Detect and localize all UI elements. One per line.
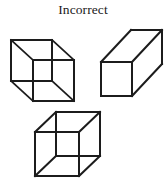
figure-cuboid-prism [96,18,166,100]
cube-diagonal-connector-tr [52,40,74,60]
page-title: Incorrect [0,2,166,17]
figure-panel: Incorrect [0,0,166,182]
cuboid-prism-front-face-fill [101,62,132,96]
figure-necker-cube [30,106,108,182]
necker-cube-connector-tl [35,112,56,132]
necker-cube-connector-br [79,156,100,176]
figure-cube-diagonal [8,35,80,103]
cube-diagonal-connector-bl [11,81,33,101]
